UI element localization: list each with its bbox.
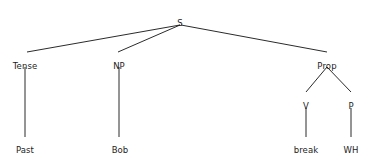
tree-node-break: break xyxy=(294,145,319,155)
tree-node-tense: Tense xyxy=(13,61,38,71)
tree-node-past: Past xyxy=(16,145,34,155)
tree-node-s: S xyxy=(177,18,183,28)
tree-edge-s-np xyxy=(118,25,180,52)
syntax-tree-diagram: STenseNPPropVPPastBobbreakWH xyxy=(0,0,375,157)
tree-edges-layer xyxy=(0,0,375,157)
tree-node-p: P xyxy=(348,101,353,111)
tree-node-bob: Bob xyxy=(112,145,129,155)
tree-edge-s-prop xyxy=(181,25,327,52)
tree-node-prop: Prop xyxy=(317,61,336,71)
tree-edge-s-tense xyxy=(27,25,180,52)
tree-node-np: NP xyxy=(113,61,125,71)
tree-node-wh: WH xyxy=(344,145,359,155)
tree-node-v: V xyxy=(303,101,309,111)
